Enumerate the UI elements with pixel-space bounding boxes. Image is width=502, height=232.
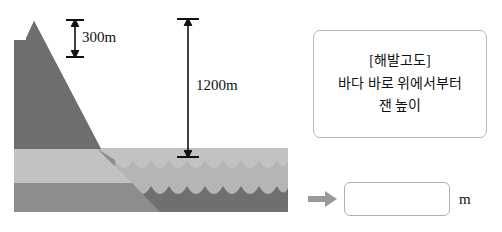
definition-line-1: 바다 바로 위에서부터 bbox=[338, 75, 462, 93]
arrow-right-icon bbox=[308, 189, 338, 209]
definition-line-2: 잰 높이 bbox=[379, 97, 422, 115]
dimension-label-300m: 300m bbox=[82, 30, 116, 45]
mountain-left-flank bbox=[14, 40, 28, 149]
definition-box: [해발고도] 바다 바로 위에서부터 잰 높이 bbox=[313, 30, 487, 138]
scene-group bbox=[14, 21, 288, 212]
definition-title: [해발고도] bbox=[369, 52, 430, 70]
dimension-label-1200m: 1200m bbox=[196, 78, 238, 93]
answer-input[interactable] bbox=[344, 182, 450, 216]
illustration-svg bbox=[0, 0, 300, 232]
answer-row: m bbox=[308, 177, 498, 221]
mountain-sea-illustration: 300m 1200m bbox=[0, 0, 300, 232]
worksheet-canvas: 300m 1200m [해발고도] 바다 바로 위에서부터 잰 높이 m bbox=[0, 0, 502, 232]
unit-label: m bbox=[459, 192, 471, 207]
right-panel: [해발고도] 바다 바로 위에서부터 잰 높이 m bbox=[300, 0, 502, 232]
